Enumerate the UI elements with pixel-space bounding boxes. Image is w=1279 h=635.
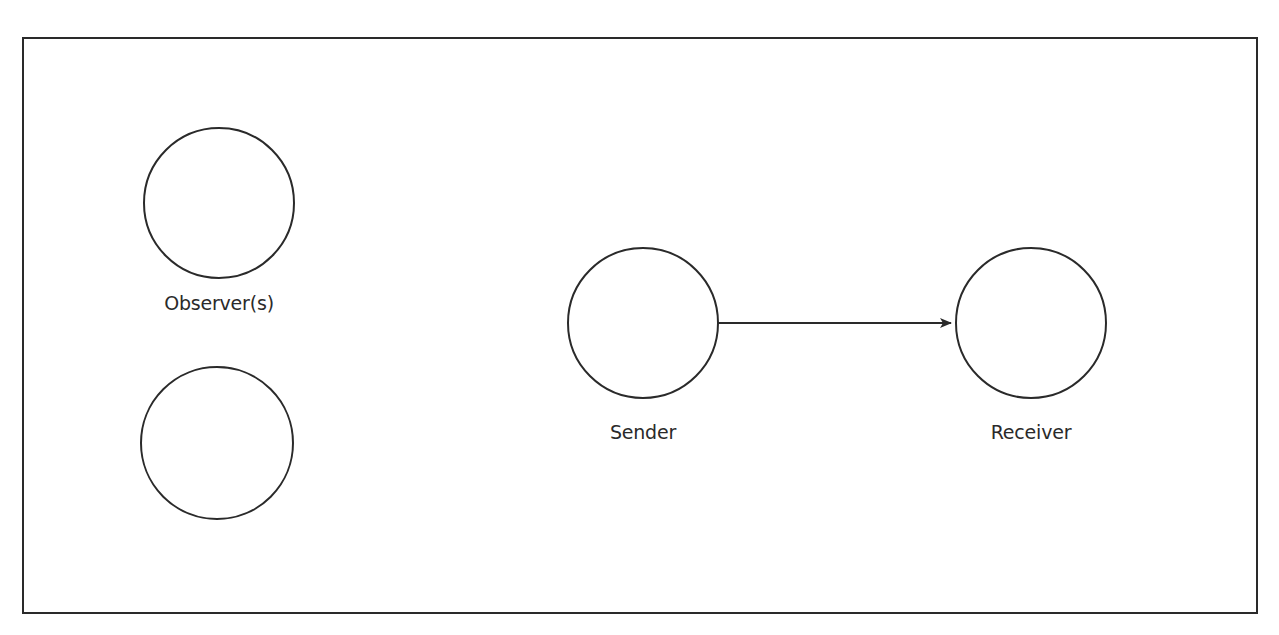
receiver-node — [956, 248, 1106, 398]
observer-node-1 — [144, 128, 294, 278]
sender-label: Sender — [610, 421, 676, 443]
communication-diagram — [0, 0, 1279, 635]
observer-node-2 — [141, 367, 293, 519]
sender-node — [568, 248, 718, 398]
observer-label: Observer(s) — [164, 292, 274, 314]
diagram-frame — [23, 38, 1257, 613]
receiver-label: Receiver — [991, 421, 1072, 443]
